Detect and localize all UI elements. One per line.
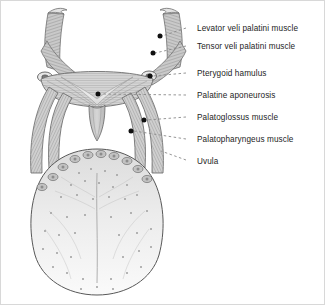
label-tensor-veli-palatini: Tensor veli palatini muscle xyxy=(197,42,295,52)
label-palatine-aponeurosis: Palatine aponeurosis xyxy=(197,91,275,101)
label-layer: Levator veli palatini muscleTensor veli … xyxy=(1,1,325,305)
label-palatoglossus: Palatoglossus muscle xyxy=(197,113,278,123)
label-pterygoid-hamulus: Pterygoid hamulus xyxy=(197,69,267,79)
anatomical-figure: Levator veli palatini muscleTensor veli … xyxy=(0,0,325,305)
label-uvula: Uvula xyxy=(197,157,218,167)
label-levator-veli-palatini: Levator veli palatini muscle xyxy=(197,24,298,34)
label-palatopharyngeus: Palatopharyngeus muscle xyxy=(197,135,294,145)
